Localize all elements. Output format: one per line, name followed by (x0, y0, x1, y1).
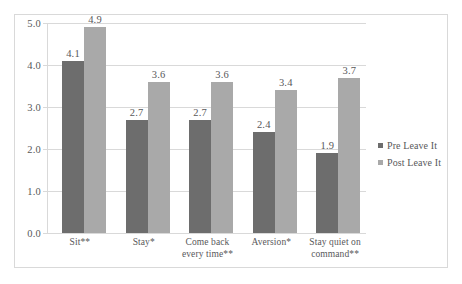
bar-value-label: 3.6 (215, 69, 229, 80)
bar-value-label: 2.7 (130, 107, 144, 118)
bar-value-label: 2.7 (193, 107, 207, 118)
y-axis-tick-mark (43, 233, 47, 234)
bar[interactable]: 2.7 (189, 120, 211, 233)
x-axis-category-label: Stay* (112, 237, 176, 260)
y-axis-tick-label: 2.0 (27, 144, 41, 155)
x-axis-category-label-line: Come back (177, 237, 239, 249)
x-axis-category-label: Aversion* (239, 237, 303, 260)
x-axis-category-label: Stay quiet oncommand** (303, 237, 367, 260)
bar[interactable]: 4.1 (62, 61, 84, 233)
bar-group: 1.93.7 (302, 23, 366, 233)
x-axis-category-label-line: Aversion* (240, 237, 302, 249)
bar[interactable]: 2.4 (253, 132, 275, 233)
legend-item-label: Pre Leave It (387, 140, 437, 151)
x-axis-category-label-line: command** (304, 249, 366, 261)
x-axis-category-label-line: Sit** (49, 237, 111, 249)
y-axis-tick-label: 5.0 (27, 18, 41, 29)
bar[interactable]: 3.7 (338, 78, 360, 233)
x-axis-category-label: Come backevery time** (176, 237, 240, 260)
y-axis-tick-label: 4.0 (27, 60, 41, 71)
bar-value-label: 4.1 (66, 48, 80, 59)
bar-value-label: 3.6 (152, 69, 166, 80)
legend-item-label: Post Leave It (387, 157, 441, 168)
y-axis-tick-label: 3.0 (27, 102, 41, 113)
x-axis-category-labels: Sit**Stay*Come backevery time**Aversion*… (48, 237, 367, 260)
bar-value-label: 3.7 (343, 65, 357, 76)
bar-group: 4.14.9 (48, 23, 112, 233)
y-axis-tick-label: 1.0 (27, 186, 41, 197)
bar[interactable]: 3.6 (211, 82, 233, 233)
y-axis-tick-mark (43, 149, 47, 150)
x-axis-category-label-line: every time** (177, 249, 239, 261)
bar-value-label: 1.9 (321, 140, 335, 151)
legend-item[interactable]: Pre Leave It (378, 140, 444, 151)
x-axis-category-label-line: Stay quiet on (304, 237, 366, 249)
bar[interactable]: 2.7 (126, 120, 148, 233)
y-axis-tick-mark (43, 23, 47, 24)
legend-color-swatch (378, 160, 383, 165)
bar-group: 2.73.6 (175, 23, 239, 233)
y-axis-tick-mark (43, 107, 47, 108)
bar[interactable]: 4.9 (84, 27, 106, 233)
x-axis-category-label-line: Stay* (113, 237, 175, 249)
y-axis-tick-mark (43, 65, 47, 66)
y-axis-tick-mark (43, 191, 47, 192)
bar[interactable]: 3.6 (148, 82, 170, 233)
gridline (47, 233, 366, 234)
bar-group: 2.73.6 (112, 23, 176, 233)
bar-group: 2.43.4 (239, 23, 303, 233)
legend-color-swatch (378, 143, 383, 148)
legend-item[interactable]: Post Leave It (378, 157, 444, 168)
x-axis-category-label: Sit** (48, 237, 112, 260)
chart-frame: 5.04.03.02.01.00.0 4.14.92.73.62.73.62.4… (14, 14, 448, 268)
bar[interactable]: 3.4 (275, 90, 297, 233)
bar-value-label: 4.9 (88, 14, 102, 25)
y-axis-tick-label: 0.0 (27, 228, 41, 239)
bar-value-label: 3.4 (279, 77, 293, 88)
bar-value-label: 2.4 (257, 119, 271, 130)
bar[interactable]: 1.9 (316, 153, 338, 233)
bar-series-layer: 4.14.92.73.62.73.62.43.41.93.7 (48, 23, 366, 233)
plot-area: 5.04.03.02.01.00.0 4.14.92.73.62.73.62.4… (47, 23, 366, 233)
chart-legend: Pre Leave ItPost Leave It (378, 140, 444, 174)
